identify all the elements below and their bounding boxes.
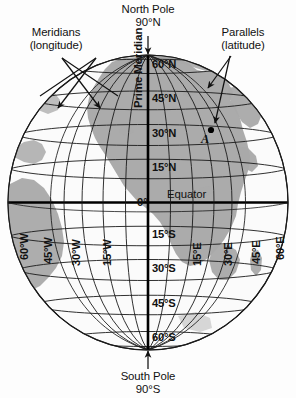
- parallels-label-line2: (latitude): [196, 39, 290, 52]
- parallel-label-15n: 15°N: [152, 161, 176, 174]
- north-pole-label-line1: North Pole: [104, 3, 192, 16]
- parallel-label-30n-text: 30°N: [152, 127, 176, 139]
- parallel-label-45s: 45°S: [152, 297, 176, 310]
- parallel-label-60n: 60°N: [152, 58, 176, 71]
- south-pole-label-line2: 90°S: [104, 383, 192, 396]
- globe-diagram-canvas: North Pole 90°N Meridians (longitude) Pa…: [0, 0, 296, 398]
- equator-label: Equator: [167, 188, 206, 201]
- parallels-label: Parallels (latitude): [196, 26, 290, 52]
- meridian-label-30e: 30°E: [222, 242, 235, 266]
- point-a-label-text: A: [201, 132, 209, 146]
- parallel-label-30s: 30°S: [152, 262, 176, 275]
- parallel-label-45n: 45°N: [152, 92, 176, 105]
- north-pole-label: North Pole 90°N: [104, 3, 192, 29]
- prime-meridian-label: Prime Meridian: [132, 28, 145, 108]
- meridians-label-line2: (longitude): [8, 39, 104, 52]
- parallel-label-30n: 30°N: [152, 127, 176, 140]
- meridian-label-45e-text: 45°E: [250, 240, 262, 264]
- parallels-label-line1: Parallels: [196, 26, 290, 39]
- parallel-label-60s: 60°S: [152, 331, 176, 344]
- parallel-label-60n-text: 60°N: [152, 58, 176, 70]
- meridian-label-30w: 30°W: [70, 239, 83, 266]
- prime-meridian-label-text: Prime Meridian: [132, 28, 144, 108]
- equator-zero-text: 0°: [137, 196, 148, 208]
- meridians-label: Meridians (longitude): [8, 26, 104, 52]
- equator-label-text: Equator: [167, 188, 206, 200]
- meridian-label-60e-text: 60°E: [274, 236, 286, 260]
- meridian-label-45w-text: 45°W: [42, 237, 54, 264]
- point-a-label: A: [201, 132, 209, 146]
- south-pole-label: South Pole 90°S: [104, 370, 192, 396]
- parallel-label-45n-text: 45°N: [152, 92, 176, 104]
- meridian-label-45w: 45°W: [42, 237, 55, 264]
- meridian-label-60e: 60°E: [274, 236, 287, 260]
- meridians-label-line1: Meridians: [8, 26, 104, 39]
- parallel-label-15n-text: 15°N: [152, 161, 176, 173]
- meridian-label-60w: 60°W: [18, 233, 31, 260]
- meridian-label-30w-text: 30°W: [70, 239, 82, 266]
- meridian-label-15w-text: 15°W: [101, 239, 113, 266]
- parallel-label-30s-text: 30°S: [152, 262, 176, 274]
- south-pole-label-line1: South Pole: [104, 370, 192, 383]
- parallel-label-15s-text: 15°S: [152, 228, 176, 240]
- meridian-label-30e-text: 30°E: [222, 242, 234, 266]
- north-pole-label-line2: 90°N: [104, 16, 192, 29]
- meridian-label-60w-text: 60°W: [18, 233, 30, 260]
- parallel-label-15s: 15°S: [152, 228, 176, 241]
- parallel-label-45s-text: 45°S: [152, 297, 176, 309]
- globe-svg: [0, 0, 296, 398]
- meridian-label-15w: 15°W: [101, 239, 114, 266]
- meridian-label-15e: 15°E: [191, 242, 204, 266]
- meridian-label-15e-text: 15°E: [191, 242, 203, 266]
- equator-zero-label: 0°: [137, 196, 148, 209]
- parallel-label-60s-text: 60°S: [152, 331, 176, 343]
- meridian-label-45e: 45°E: [250, 240, 263, 264]
